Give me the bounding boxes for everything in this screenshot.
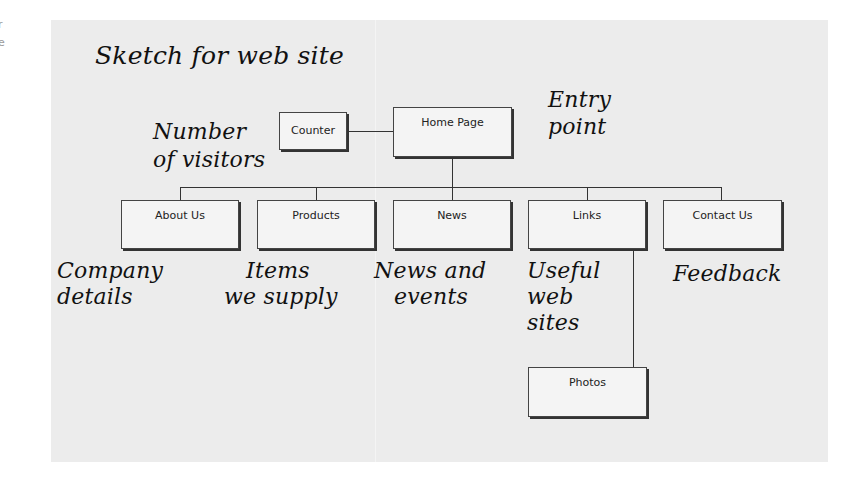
note-counter-line1: Number [153, 120, 246, 144]
note-counter-line2: of visitors [153, 148, 265, 172]
node-counter: Counter [279, 112, 347, 150]
node-label: Photos [569, 376, 606, 389]
edge-links-photos [633, 250, 634, 367]
diagram-title: Sketch for web site [95, 44, 344, 68]
edge-to-links [587, 187, 588, 200]
edge-to-contact [721, 187, 722, 200]
scan-seam [375, 20, 376, 462]
node-photos: Photos [528, 367, 647, 417]
node-contact-us: Contact Us [663, 200, 782, 249]
note-about-line2: details [57, 285, 133, 309]
node-label: News [437, 209, 467, 222]
note-about-line1: Company [57, 259, 163, 283]
note-links-line2: web [527, 285, 574, 309]
clipped-margin-text: e [0, 36, 5, 49]
edge-to-news [452, 187, 453, 200]
node-label: Products [292, 209, 340, 222]
note-contact: Feedback [673, 262, 782, 286]
note-home-line1: Entry [548, 88, 611, 112]
note-news-line1: News and [374, 259, 486, 283]
node-label: Links [573, 209, 601, 222]
note-news-line2: events [394, 285, 468, 309]
edge-to-products [316, 187, 317, 200]
node-home-page: Home Page [393, 107, 512, 157]
node-links: Links [528, 200, 646, 249]
note-products-line1: Items [246, 259, 310, 283]
node-products: Products [257, 200, 375, 249]
node-label: Home Page [421, 116, 484, 129]
node-about-us: About Us [121, 200, 239, 249]
edge-home-trunk [452, 157, 453, 187]
clipped-margin-text: r [0, 18, 3, 31]
edge-level1-bus [180, 187, 722, 188]
node-label: Counter [291, 124, 335, 137]
node-label: Contact Us [692, 209, 752, 222]
note-home-line2: point [548, 115, 606, 139]
edge-to-about [180, 187, 181, 200]
note-links-line3: sites [527, 311, 579, 335]
node-news: News [393, 200, 511, 249]
note-products-line2: we supply [224, 285, 338, 309]
node-label: About Us [155, 209, 205, 222]
note-links-line1: Useful [527, 259, 600, 283]
edge-counter-home [347, 131, 393, 132]
